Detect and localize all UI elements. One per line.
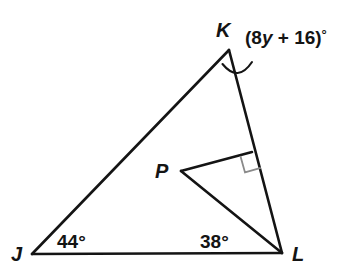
vertex-label-J: J <box>11 243 23 265</box>
angle-label-J: 44° <box>57 231 86 252</box>
vertex-label-K: K <box>216 19 232 41</box>
expr-coefficient: 8 <box>251 27 262 48</box>
vertex-label-L: L <box>292 243 304 265</box>
segment-PL <box>181 171 282 253</box>
exterior-angle-arc-icon <box>223 62 253 73</box>
side-JL <box>32 253 282 254</box>
geometry-figure: J K L P 44° 38° (8y + 16)° <box>0 0 355 279</box>
vertex-label-P: P <box>155 160 169 182</box>
side-JK <box>32 50 229 254</box>
exterior-angle-expression: (8y + 16)° <box>245 27 327 48</box>
side-KL <box>229 50 282 253</box>
expr-operator: + <box>272 27 294 48</box>
expr-constant: 16 <box>294 27 315 48</box>
triangle-jkl-diagram: J K L P 44° 38° (8y + 16)° <box>0 0 355 279</box>
expr-degree-symbol: ° <box>322 27 327 42</box>
angle-label-L: 38° <box>200 231 229 252</box>
